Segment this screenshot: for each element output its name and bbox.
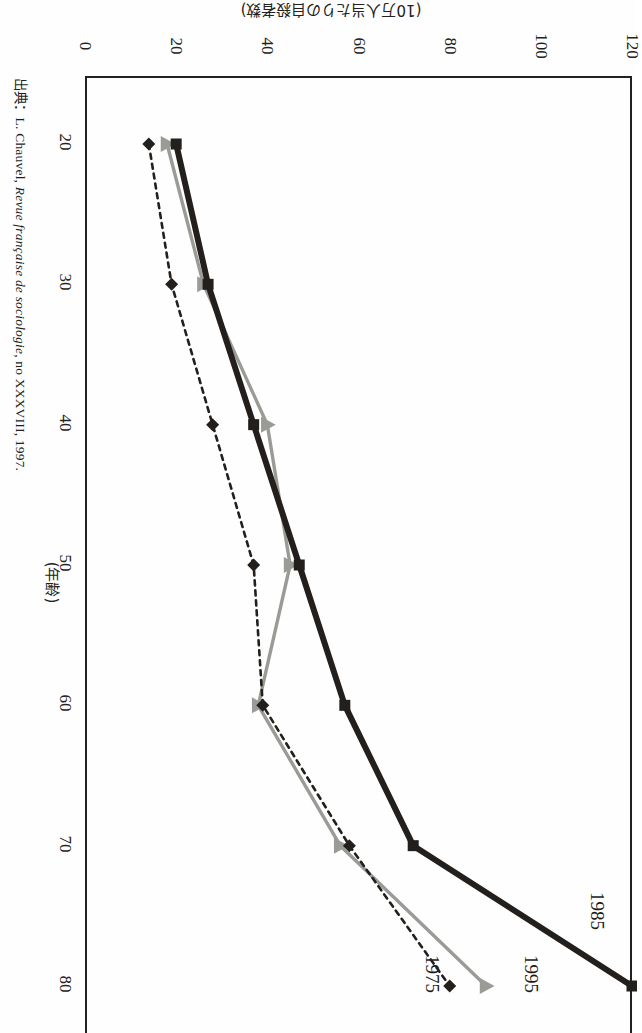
category-tick-50: 50 <box>55 546 75 580</box>
source-credit: 出典：L. Chauvel, Revue française de sociol… <box>12 78 32 498</box>
series-label-1975: 1975 <box>421 955 443 993</box>
source-suffix: , no XXXVIII, 1997. <box>13 354 28 471</box>
plot-frame <box>85 76 632 1033</box>
value-tick-0: 0 <box>75 23 95 69</box>
category-tick-20: 20 <box>55 125 75 159</box>
category-tick-40: 40 <box>55 406 75 440</box>
series-label-1985: 1985 <box>586 892 608 930</box>
source-prefix: 出典：L. Chauvel, <box>13 78 28 187</box>
value-axis-label: (10万人当たりの自殺者数) <box>236 1 426 22</box>
value-tick-20: 20 <box>166 23 186 69</box>
source-journal: Revue française de sociologie <box>13 187 28 354</box>
value-tick-40: 40 <box>257 23 277 69</box>
value-tick-60: 60 <box>349 23 369 69</box>
value-tick-120: 120 <box>622 23 642 69</box>
category-tick-30: 30 <box>55 265 75 299</box>
category-tick-80: 80 <box>55 967 75 1001</box>
value-tick-100: 100 <box>531 23 551 69</box>
category-tick-70: 70 <box>55 827 75 861</box>
series-label-1995: 1995 <box>520 955 542 993</box>
value-tick-80: 80 <box>440 23 460 69</box>
category-tick-60: 60 <box>55 686 75 720</box>
